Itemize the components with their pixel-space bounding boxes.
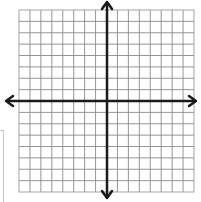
axes xyxy=(6,2,196,198)
margin-bracket-line xyxy=(3,130,4,202)
coordinate-plane xyxy=(0,0,201,202)
margin-bracket-tick xyxy=(0,130,4,131)
coordinate-grid-svg xyxy=(0,0,201,202)
